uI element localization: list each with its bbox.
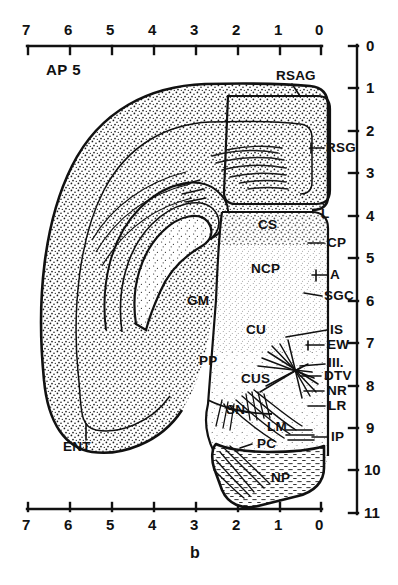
structure-label-pc: PC <box>257 437 276 451</box>
structure-label-lr: LR <box>328 399 346 413</box>
right-scale-tick-7: 7 <box>366 335 374 350</box>
bottom-scale-tick-2: 2 <box>232 517 240 532</box>
structure-label-ncp: NCP <box>251 262 280 276</box>
structure-label-is: IS <box>330 323 343 337</box>
structure-label-sn: SN <box>226 403 245 417</box>
top-scale-tick-1: 1 <box>274 22 282 37</box>
right-scale-tick-11: 11 <box>364 505 380 520</box>
top-scale-tick-3: 3 <box>190 22 198 37</box>
bottom-scale-tick-7: 7 <box>22 517 30 532</box>
structure-label-dtv: DTV <box>324 369 352 383</box>
bottom-scale-tick-4: 4 <box>148 517 156 532</box>
structure-label-ew: EW <box>327 338 349 352</box>
top-scale-tick-0: 0 <box>315 22 323 37</box>
top-scale-bar <box>27 46 322 54</box>
bottom-scale-tick-6: 6 <box>64 517 72 532</box>
right-scale-bar <box>349 45 358 514</box>
right-scale-tick-10: 10 <box>364 462 381 477</box>
structure-label-nr: NR <box>327 384 347 398</box>
top-scale-tick-6: 6 <box>64 22 72 37</box>
structure-label-sgc: SGC <box>324 289 354 303</box>
bottom-scale-tick-3: 3 <box>190 517 198 532</box>
panel-letter: b <box>190 545 200 561</box>
right-scale-tick-0: 0 <box>366 38 374 53</box>
right-scale-tick-4: 4 <box>366 208 374 223</box>
right-scale-tick-2: 2 <box>366 123 374 138</box>
structure-label-gm: GM <box>187 294 209 308</box>
bottom-scale-tick-1: 1 <box>274 517 282 532</box>
structure-label-pp: PP <box>199 354 217 368</box>
right-scale-tick-6: 6 <box>366 293 374 308</box>
top-scale-tick-4: 4 <box>148 22 156 37</box>
bottom-scale-tick-0: 0 <box>315 517 323 532</box>
structure-label-cu: CU <box>246 323 266 337</box>
structure-label-np: NP <box>271 471 290 485</box>
section-level-label: AP 5 <box>46 62 81 77</box>
bottom-scale-bar <box>27 503 322 511</box>
structure-label-ent: ENT <box>63 440 91 454</box>
structure-label-l: L <box>321 207 329 221</box>
structure-label-cs: CS <box>258 218 277 232</box>
structure-label-ip: IP <box>331 430 344 444</box>
structure-label-rsag: RSAG <box>276 69 316 83</box>
bottom-scale-tick-5: 5 <box>106 517 114 532</box>
structure-label-rsg: RSG <box>326 141 356 155</box>
right-scale-tick-3: 3 <box>366 165 374 180</box>
top-scale-tick-5: 5 <box>106 22 114 37</box>
structure-label-cp: CP <box>327 236 346 250</box>
top-scale-tick-2: 2 <box>232 22 240 37</box>
top-scale-tick-7: 7 <box>22 22 30 37</box>
right-scale-tick-9: 9 <box>366 420 374 435</box>
atlas-plate-figure: 7 6 5 4 3 2 1 0 7 6 5 4 3 2 1 0 0 1 2 3 … <box>0 0 398 585</box>
structure-label-cus: CUS <box>241 372 270 386</box>
structure-label-a: A <box>330 268 340 282</box>
right-scale-tick-8: 8 <box>366 378 374 393</box>
right-scale-tick-5: 5 <box>366 250 374 265</box>
structure-label-lm: LM <box>267 420 287 434</box>
right-scale-tick-1: 1 <box>366 80 374 95</box>
